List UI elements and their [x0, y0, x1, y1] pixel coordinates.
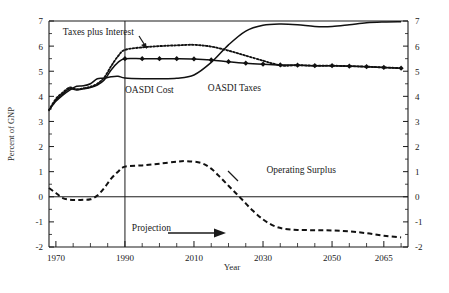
- y-tick-label-right: 2: [415, 142, 420, 152]
- series-marker: [260, 62, 265, 67]
- series-marker: [122, 56, 127, 61]
- y-tick-label-right: 3: [415, 117, 420, 127]
- x-tick-label: 1970: [47, 253, 66, 263]
- x-tick-label: 1990: [116, 253, 135, 263]
- series-line: [49, 161, 401, 237]
- x-tick-label: 2030: [254, 253, 273, 263]
- x-tick-label: 2050: [323, 253, 342, 263]
- y-axis-title: Percent of GNP: [6, 107, 16, 161]
- x-axis-tick-labels: 197019902010203020502065: [47, 253, 393, 263]
- series-marker: [243, 61, 248, 66]
- series-marker: [157, 56, 162, 61]
- y-tick-label: 6: [39, 42, 44, 52]
- x-tick-label: 2010: [185, 253, 204, 263]
- taxes-plus-interest-label: Taxes plus Interest: [63, 27, 134, 37]
- series-marker: [174, 56, 179, 61]
- y-tick-label: -1: [36, 217, 44, 227]
- chart-canvas: -2-101234567 -2-101234567 19701990201020…: [0, 0, 449, 293]
- series-marker: [226, 59, 231, 64]
- operating-surplus-label: Operating Surplus: [266, 165, 336, 175]
- x-axis-title: Year: [224, 262, 241, 272]
- y-tick-label: 4: [39, 92, 44, 102]
- oasdi-cost-label: OASDI Cost: [125, 85, 174, 95]
- annotation-leaders: [139, 36, 238, 181]
- projection-label: Projection: [132, 223, 171, 233]
- series-operating-surplus: [49, 161, 401, 237]
- y-tick-label-right: 5: [415, 67, 420, 77]
- x-tick-label: 2065: [375, 253, 394, 263]
- y-axis-ticks-left: [49, 21, 54, 247]
- y-tick-label: -2: [36, 242, 44, 252]
- axes-frame: [49, 21, 408, 247]
- data-series-group: [49, 22, 404, 238]
- y-tick-label-right: 7: [415, 16, 420, 26]
- y-tick-label-right: 1: [415, 167, 420, 177]
- series-taxes-plus-interest: [49, 45, 401, 110]
- y-tick-label: 7: [39, 16, 44, 26]
- y-tick-label: 3: [39, 117, 44, 127]
- y-tick-label-right: 0: [415, 192, 420, 202]
- y-tick-label: 2: [39, 142, 44, 152]
- y-tick-label-right: 6: [415, 42, 420, 52]
- chart-annotations: Taxes plus InterestOASDI CostOASDI Taxes…: [63, 27, 336, 233]
- y-axis-tick-labels-left: -2-101234567: [36, 16, 44, 252]
- projection-arrow: [168, 229, 226, 238]
- oasdi-taxes-label: OASDI Taxes: [208, 83, 262, 93]
- y-axis-tick-labels-right: -2-101234567: [415, 16, 423, 252]
- y-tick-label-right: 4: [415, 92, 420, 102]
- x-axis-ticks: [56, 241, 401, 247]
- series-marker: [191, 56, 196, 61]
- y-tick-label-right: -1: [415, 217, 423, 227]
- y-tick-label-right: -2: [415, 242, 423, 252]
- series-marker: [140, 56, 145, 61]
- y-tick-label: 0: [39, 192, 44, 202]
- y-tick-label: 1: [39, 167, 44, 177]
- series-line: [49, 45, 401, 110]
- y-axis-ticks-right: [403, 21, 408, 247]
- chart-figure: -2-101234567 -2-101234567 19701990201020…: [0, 0, 449, 293]
- y-tick-label: 5: [39, 67, 44, 77]
